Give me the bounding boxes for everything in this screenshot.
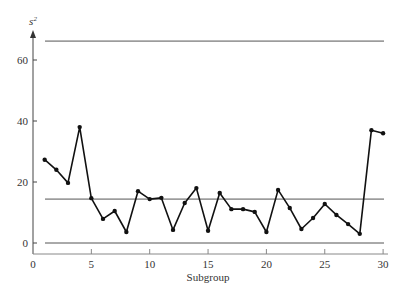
data-point <box>148 197 152 201</box>
y-axis-arrow-icon <box>30 30 36 38</box>
data-point <box>171 228 175 232</box>
data-point <box>77 125 81 129</box>
data-point <box>311 216 315 220</box>
data-point <box>346 222 350 226</box>
data-point <box>241 207 245 211</box>
data-point <box>323 202 327 206</box>
x-tick-label: 25 <box>319 258 331 270</box>
data-point <box>206 229 210 233</box>
data-point <box>42 158 46 162</box>
data-point <box>334 213 338 217</box>
data-point <box>264 230 268 234</box>
data-point <box>66 181 70 185</box>
data-point <box>194 186 198 190</box>
y-tick-label: 40 <box>17 115 29 127</box>
y-axis-label: s2 <box>29 15 37 27</box>
x-axis-label: Subgroup <box>187 271 230 283</box>
data-point <box>299 227 303 231</box>
data-series <box>42 125 385 236</box>
axes: 0204060051015202530 <box>17 30 389 270</box>
data-point <box>101 217 105 221</box>
control-chart: 0204060051015202530 Subgroup s2 <box>0 0 409 305</box>
data-point <box>276 188 280 192</box>
data-point <box>159 196 163 200</box>
data-point <box>89 196 93 200</box>
y-tick-label: 60 <box>17 54 29 66</box>
data-point <box>136 189 140 193</box>
x-tick-label: 20 <box>261 258 273 270</box>
data-point <box>288 206 292 210</box>
series-line <box>45 127 383 234</box>
x-tick-label: 10 <box>144 258 156 270</box>
data-point <box>183 201 187 205</box>
data-point <box>124 230 128 234</box>
data-point <box>112 209 116 213</box>
y-tick-label: 20 <box>17 176 29 188</box>
data-point <box>358 232 362 236</box>
x-tick-label: 15 <box>203 258 215 270</box>
data-point <box>253 210 257 214</box>
y-tick-label: 0 <box>23 237 29 249</box>
x-tick-label: 5 <box>89 258 95 270</box>
data-point <box>369 128 373 132</box>
data-point <box>218 191 222 195</box>
x-tick-label: 0 <box>30 258 36 270</box>
data-point <box>381 131 385 135</box>
x-tick-label: 30 <box>378 258 390 270</box>
data-point <box>229 207 233 211</box>
data-point <box>54 168 58 172</box>
